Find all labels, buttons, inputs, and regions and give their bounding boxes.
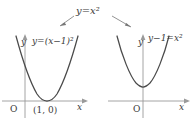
right-origin-label: O <box>133 104 140 114</box>
right-x-axis-label: x <box>179 102 184 112</box>
left-panel: y x O (1, 0) y=(x−1)² <box>2 34 88 118</box>
right-equation-label: y−1=x² <box>147 33 183 43</box>
right-x-axis <box>108 99 190 104</box>
pointer-arrow-right <box>112 16 131 27</box>
right-panel: y x O y−1=x² <box>108 33 190 118</box>
top-equation-label: y=x² <box>75 5 100 16</box>
left-x-axis-label: x <box>77 102 82 112</box>
right-y-axis-label: y <box>137 37 144 47</box>
left-equation-label: y=(x−1)² <box>31 36 74 46</box>
left-vertex-label: (1, 0) <box>33 105 57 115</box>
pointer-arrow-left <box>60 16 74 26</box>
left-origin-label: O <box>10 104 17 114</box>
parabola-comparison-figure: y=x² y x <box>0 0 195 123</box>
left-y-axis-label: y <box>20 37 27 47</box>
